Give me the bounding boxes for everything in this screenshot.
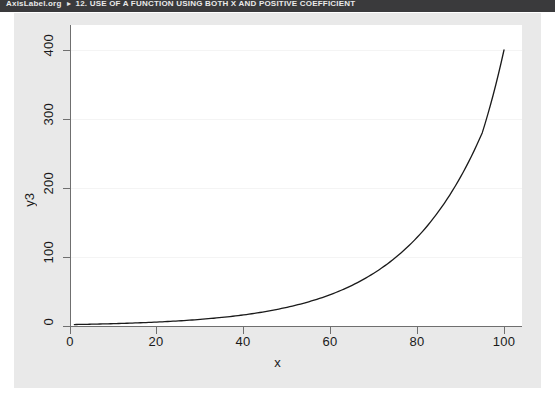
y-tick-mark-100 [63, 257, 70, 258]
x-tick-mark-80 [417, 327, 418, 334]
y-tick-label-0: 0 [41, 318, 56, 326]
x-tick-label-40: 40 [223, 334, 263, 349]
y-tick-mark-0 [63, 326, 70, 327]
y-tick-mark-200 [63, 188, 70, 189]
x-tick-mark-100 [504, 327, 505, 334]
breadcrumb[interactable]: 12. USE OF A FUNCTION USING BOTH X AND P… [76, 0, 356, 8]
series-line-y3 [70, 25, 522, 327]
x-tick-label-20: 20 [136, 334, 176, 349]
site-header-bar: AxisLabel.org ▸ 12. USE OF A FUNCTION US… [0, 0, 555, 12]
x-tick-label-80: 80 [397, 334, 437, 349]
y-tick-mark-400 [63, 50, 70, 51]
chart-figure: 400 300 200 100 0 y3 0 20 40 60 80 100 x [14, 13, 541, 388]
y-tick-label-200: 200 [41, 172, 56, 195]
y-tick-label-100: 100 [41, 241, 56, 264]
x-tick-mark-0 [70, 327, 71, 334]
y-tick-label-300: 300 [41, 103, 56, 126]
y-tick-label-400: 400 [41, 34, 56, 57]
x-tick-label-0: 0 [50, 334, 90, 349]
site-brand-label[interactable]: AxisLabel.org [6, 0, 62, 8]
y-axis-title: y3 [22, 193, 37, 207]
x-tick-label-60: 60 [310, 334, 350, 349]
x-tick-label-100: 100 [484, 334, 524, 349]
caret-right-icon: ▸ [67, 0, 71, 8]
x-axis-title: x [14, 355, 541, 370]
x-tick-mark-40 [243, 327, 244, 334]
x-tick-mark-60 [330, 327, 331, 334]
y-tick-mark-300 [63, 119, 70, 120]
x-tick-mark-20 [156, 327, 157, 334]
